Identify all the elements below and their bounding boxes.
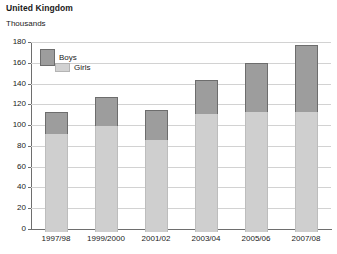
y-axis-tick (28, 63, 31, 64)
gridline (31, 146, 331, 147)
legend-item-girls: Girls (55, 63, 90, 72)
bar-segment-boys[interactable] (145, 110, 168, 140)
gridline (31, 42, 331, 43)
x-axis-line (31, 229, 332, 230)
y-axis-tick (28, 104, 31, 105)
girls-swatch-icon (55, 63, 70, 72)
y-axis-tick (28, 125, 31, 126)
y-axis-tick (28, 84, 31, 85)
y-axis-tick-label: 140 (0, 80, 26, 88)
bar-segment-girls[interactable] (195, 114, 218, 232)
y-axis-tick-label: 80 (0, 142, 26, 150)
bar-segment-girls[interactable] (295, 112, 318, 232)
chart-figure: United Kingdom Thousands 020406080100120… (0, 0, 337, 254)
y-axis-tick (28, 208, 31, 209)
gridline (31, 125, 331, 126)
bar-segment-boys[interactable] (95, 97, 118, 126)
bar-segment-boys[interactable] (45, 112, 68, 135)
y-axis-tick-label: 60 (0, 163, 26, 171)
legend-label-boys: Boys (59, 53, 77, 62)
bar-stack[interactable] (95, 97, 118, 232)
bar-segment-boys[interactable] (295, 45, 318, 111)
bar-stack[interactable] (45, 112, 68, 232)
boys-swatch-icon (40, 49, 55, 66)
y-axis-tick-label: 100 (0, 121, 26, 129)
y-axis-tick (28, 187, 31, 188)
bar-segment-girls[interactable] (145, 140, 168, 232)
bar-stack[interactable] (295, 45, 318, 232)
x-axis-tick-label: 2007/08 (276, 234, 336, 243)
bar-stack[interactable] (245, 63, 268, 232)
bar-stack[interactable] (195, 80, 218, 232)
y-axis-tick-label: 20 (0, 204, 26, 212)
chart-subtitle: Thousands (6, 19, 46, 28)
legend-label-girls: Girls (74, 63, 90, 72)
gridline (31, 187, 331, 188)
bar-segment-girls[interactable] (95, 126, 118, 232)
bar-segment-girls[interactable] (245, 112, 268, 232)
gridline (31, 208, 331, 209)
bar-segment-boys[interactable] (195, 80, 218, 113)
y-axis-tick-label: 160 (0, 59, 26, 67)
y-axis-tick (28, 146, 31, 147)
bar-stack[interactable] (145, 110, 168, 232)
chart-legend: Boys Girls (40, 49, 118, 79)
y-axis-tick (28, 167, 31, 168)
y-axis-tick (28, 229, 31, 230)
gridline (31, 167, 331, 168)
y-axis-tick-label: 180 (0, 38, 26, 46)
gridline (31, 84, 331, 85)
y-axis-tick-label: 0 (0, 225, 26, 233)
bar-segment-boys[interactable] (245, 63, 268, 112)
y-axis-tick (28, 42, 31, 43)
gridline (31, 104, 331, 105)
y-axis-tick-label: 40 (0, 183, 26, 191)
bar-segment-girls[interactable] (45, 134, 68, 232)
y-axis-tick-label: 120 (0, 100, 26, 108)
chart-title: United Kingdom (6, 3, 73, 13)
